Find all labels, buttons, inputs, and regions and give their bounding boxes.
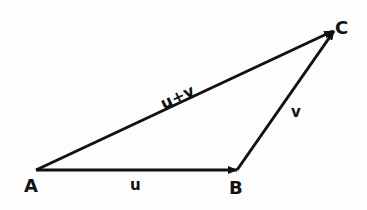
point-c-label: C	[335, 17, 348, 38]
point-b-label: B	[229, 177, 243, 198]
vector-diagram: A B C u v u+v	[0, 0, 367, 210]
vector-v-label: v	[291, 103, 301, 121]
diagram-svg: A B C u v u+v	[0, 0, 367, 210]
point-a-label: A	[24, 175, 38, 196]
vector-u-plus-v-label: u+v	[158, 81, 198, 113]
vector-u-label: u	[130, 176, 141, 194]
